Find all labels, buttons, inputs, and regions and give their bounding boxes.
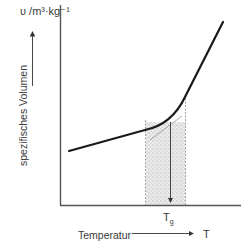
- tg-subscript: g: [170, 218, 174, 225]
- y-axis-name-label: spezifisches Volumen: [17, 65, 29, 166]
- x-axis-symbol-label: T: [203, 228, 210, 240]
- tg-label: Tg: [163, 211, 174, 225]
- tg-symbol: T: [163, 211, 170, 223]
- diagram-canvas: [0, 0, 246, 243]
- y-axis-unit-label: υ /m³·kg⁻¹: [20, 5, 70, 18]
- glass-transition-region: [146, 98, 186, 205]
- x-axis-name-label: Temperatur: [78, 229, 131, 241]
